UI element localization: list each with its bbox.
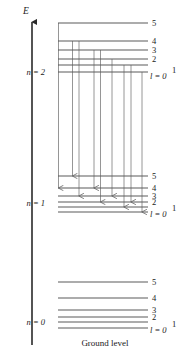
l-superscript-n0: 1: [172, 319, 176, 329]
sublevel-label-n1-5: 5: [152, 171, 156, 181]
sublevel-label-n0-2: 2: [152, 312, 156, 322]
energy-level-diagram: E 5432n = 2l = 015432n = 1l = 015432n = …: [0, 0, 185, 351]
l-superscript-n2: 1: [172, 65, 176, 75]
sublevel-label-n0-4: 4: [152, 293, 157, 303]
l-label-n1: l = 0: [150, 209, 167, 219]
sublevel-label-n2-2: 2: [152, 54, 156, 64]
energy-axis: E: [22, 6, 32, 345]
l-superscript-n1: 1: [172, 203, 176, 213]
l-label-n0: l = 0: [150, 325, 167, 335]
sublevel-label-n1-2: 2: [152, 197, 156, 207]
transition-arrows: [59, 23, 143, 212]
ground-level-caption: Ground level: [81, 338, 129, 348]
sublevel-label-n2-5: 5: [152, 18, 156, 28]
l-label-n2: l = 0: [150, 71, 167, 81]
axis-label-E: E: [22, 6, 29, 16]
group-label-n1: n = 1: [27, 198, 46, 208]
group-label-n2: n = 2: [27, 67, 46, 77]
sublevel-label-n0-5: 5: [152, 277, 156, 287]
level-lines-group: [58, 23, 148, 328]
group-label-n0: n = 0: [27, 317, 46, 327]
